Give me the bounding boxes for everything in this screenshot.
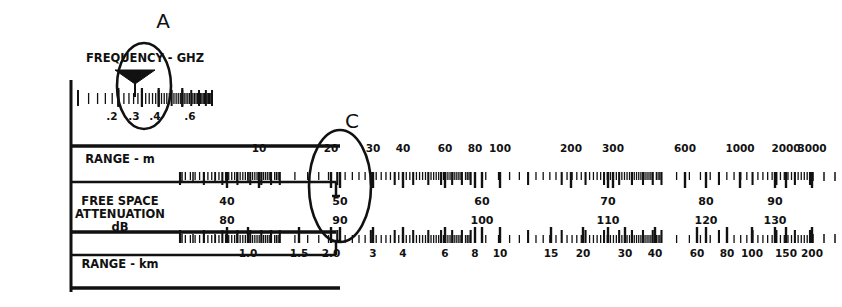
range-m-tick-label-10: 1000	[725, 142, 754, 154]
range-m-tick-label-3: 40	[396, 142, 411, 154]
attenuation-upper-label-4: 80	[698, 195, 714, 208]
attenuation-lower-label-4: 120	[695, 214, 718, 227]
attenuation-upper-label-1: 50	[332, 195, 348, 208]
range-m-tick-label-8: 300	[602, 142, 624, 154]
range-km-tick-label-8: 15	[544, 247, 559, 259]
range-km-tick-label-2: 2.0	[322, 247, 341, 259]
label-frequency: FREQUENCY - GHZ	[86, 51, 204, 65]
range-km-tick-label-15: 150	[775, 247, 797, 259]
label-free-space-attenuation: dB	[112, 220, 129, 234]
label-range-km: RANGE - km	[81, 257, 158, 271]
attenuation-lower-label-3: 110	[597, 214, 620, 227]
range-km-tick-label-1: 1.5	[290, 247, 309, 259]
range-m-tick-label-4: 60	[438, 142, 453, 154]
range-km-tick-label-7: 10	[493, 247, 508, 259]
callout-c: C	[345, 109, 359, 133]
range-km-tick-label-0: 1.0	[239, 247, 258, 259]
range-km-tick-label-16: 200	[801, 247, 823, 259]
label-range-m: RANGE - m	[85, 152, 154, 166]
frequency-tick-label-0: .2	[106, 110, 117, 122]
range-m-tick-label-11: 2000	[771, 142, 800, 154]
attenuation-upper-label-3: 70	[600, 195, 616, 208]
range-m-tick-label-5: 80	[468, 142, 483, 154]
label-free-space-attenuation: ATTENUATION	[75, 207, 165, 221]
range-km-tick-label-4: 4	[399, 247, 406, 259]
range-km-tick-label-12: 60	[690, 247, 705, 259]
range-m-tick-label-0: 10	[252, 142, 267, 154]
frequency-tick-label-3: .6	[184, 110, 195, 122]
range-m-tick-label-12: 3000	[797, 142, 826, 154]
attenuation-upper-label-0: 40	[219, 195, 235, 208]
range-km-tick-label-9: 20	[576, 247, 591, 259]
range-m-tick-label-6: 100	[489, 142, 511, 154]
range-m-tick-label-7: 200	[560, 142, 582, 154]
range-km-tick-label-5: 6	[441, 247, 448, 259]
range-km-tick-label-11: 40	[648, 247, 663, 259]
attenuation-lower-label-5: 130	[764, 214, 787, 227]
attenuation-lower-label-2: 100	[471, 214, 494, 227]
range-km-tick-label-10: 30	[618, 247, 633, 259]
range-km-tick-label-13: 80	[720, 247, 735, 259]
attenuation-lower-label-1: 90	[332, 214, 348, 227]
range-km-tick-label-6: 8	[471, 247, 478, 259]
range-m-tick-label-2: 30	[366, 142, 381, 154]
frequency-tick-label-1: .3	[128, 110, 139, 122]
label-free-space-attenuation: FREE SPACE	[81, 194, 158, 208]
nomograph-canvas: FREQUENCY - GHZRANGE - mFREE SPACEATTENU…	[0, 0, 842, 307]
nomograph-figure: FREQUENCY - GHZRANGE - mFREE SPACEATTENU…	[0, 0, 842, 307]
attenuation-upper-label-2: 60	[474, 195, 490, 208]
attenuation-lower-label-0: 80	[219, 214, 235, 227]
callout-a: A	[156, 9, 170, 33]
attenuation-upper-label-5: 90	[767, 195, 783, 208]
range-m-tick-label-9: 600	[674, 142, 696, 154]
range-km-tick-label-14: 100	[741, 247, 763, 259]
range-m-tick-label-1: 20	[324, 142, 339, 154]
range-km-tick-label-3: 3	[369, 247, 376, 259]
